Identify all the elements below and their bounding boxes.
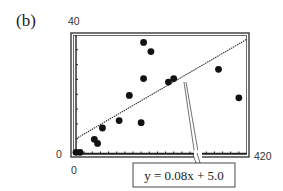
data-points (73, 39, 243, 156)
data-point (140, 75, 147, 82)
equation-callout: y = 0.08x + 5.0 (133, 163, 235, 187)
outer-frame (71, 33, 249, 157)
data-point (116, 117, 123, 124)
equation-label: y = 0.08x + 5.0 (144, 168, 224, 183)
x-axis-min-label: 0 (71, 164, 77, 176)
y-axis-min-label: 0 (56, 148, 62, 160)
data-point (170, 75, 177, 82)
data-point (77, 149, 84, 156)
panel-label: (b) (16, 11, 36, 30)
callout-pointer (184, 82, 202, 163)
data-point (235, 94, 242, 101)
data-point (148, 48, 155, 55)
axis-ticks (76, 50, 239, 154)
data-point (215, 66, 222, 73)
data-point (140, 39, 147, 46)
scatter-chart: (b) 40 0 0 420 y = 0.08x + 5.0 (0, 0, 283, 191)
data-point (99, 125, 106, 132)
data-point (94, 140, 101, 147)
y-axis-max-label: 40 (68, 15, 80, 27)
data-point (138, 119, 145, 126)
data-point (126, 92, 133, 99)
inner-frame (74, 36, 247, 155)
regression-line (76, 39, 247, 139)
x-axis-max-label: 420 (254, 150, 272, 162)
axes (76, 35, 247, 154)
